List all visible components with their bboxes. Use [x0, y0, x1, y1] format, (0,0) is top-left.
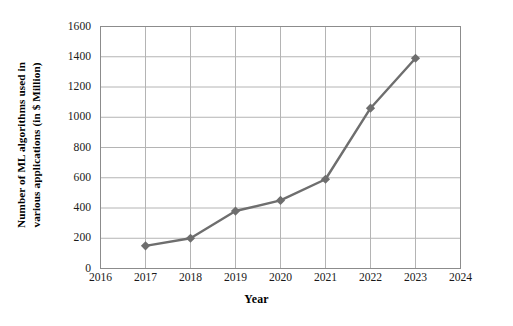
x-axis-tick-label: 2024: [449, 272, 472, 284]
x-axis-tick-labels: 201620172018201920202021202220232024: [0, 272, 513, 290]
x-axis-tick-label: 2020: [269, 272, 292, 284]
x-axis-tick-label: 2022: [359, 272, 382, 284]
x-axis-tick-label: 2018: [179, 272, 202, 284]
x-axis-tick-label: 2021: [314, 272, 337, 284]
x-axis-tick-label: 2017: [134, 272, 157, 284]
x-axis-title: Year: [0, 292, 513, 307]
grid-lines: [101, 27, 461, 269]
x-axis-tick-label: 2019: [224, 272, 247, 284]
x-axis-tick-label: 2016: [89, 272, 112, 284]
x-axis-tick-label: 2023: [404, 272, 427, 284]
line-chart-figure: Number of ML algorithms used in various …: [0, 0, 513, 326]
data-point-marker: [141, 241, 150, 250]
data-point-marker: [276, 196, 285, 205]
